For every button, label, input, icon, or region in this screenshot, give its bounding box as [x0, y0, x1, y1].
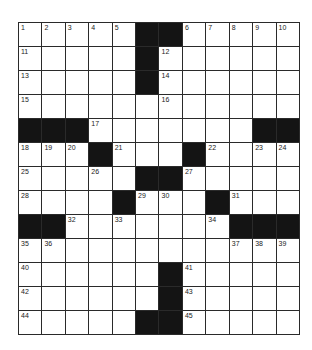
crossword-cell[interactable]: [136, 95, 158, 118]
crossword-cell[interactable]: 9: [253, 23, 275, 46]
crossword-cell[interactable]: 12: [159, 47, 181, 70]
crossword-cell[interactable]: [42, 47, 64, 70]
crossword-cell[interactable]: 27: [183, 167, 205, 190]
crossword-cell[interactable]: [159, 239, 181, 262]
crossword-cell[interactable]: 10: [277, 23, 299, 46]
crossword-cell[interactable]: 8: [230, 23, 252, 46]
crossword-cell[interactable]: [113, 239, 135, 262]
crossword-cell[interactable]: [230, 95, 252, 118]
crossword-cell[interactable]: [183, 47, 205, 70]
crossword-cell[interactable]: [230, 47, 252, 70]
crossword-cell[interactable]: [42, 311, 64, 334]
crossword-cell[interactable]: [66, 47, 88, 70]
crossword-cell[interactable]: [136, 287, 158, 310]
crossword-cell[interactable]: 26: [89, 167, 111, 190]
crossword-cell[interactable]: [253, 311, 275, 334]
crossword-cell[interactable]: 24: [277, 143, 299, 166]
crossword-cell[interactable]: [253, 191, 275, 214]
crossword-cell[interactable]: [89, 263, 111, 286]
crossword-cell[interactable]: [206, 47, 228, 70]
crossword-cell[interactable]: [183, 71, 205, 94]
crossword-cell[interactable]: [113, 287, 135, 310]
crossword-cell[interactable]: [136, 215, 158, 238]
crossword-cell[interactable]: 42: [19, 287, 41, 310]
crossword-cell[interactable]: 18: [19, 143, 41, 166]
crossword-cell[interactable]: [253, 47, 275, 70]
crossword-cell[interactable]: 3: [66, 23, 88, 46]
crossword-cell[interactable]: [277, 95, 299, 118]
crossword-cell[interactable]: 45: [183, 311, 205, 334]
crossword-cell[interactable]: 34: [206, 215, 228, 238]
crossword-cell[interactable]: [66, 311, 88, 334]
crossword-cell[interactable]: 4: [89, 23, 111, 46]
crossword-cell[interactable]: [230, 143, 252, 166]
crossword-cell[interactable]: [66, 191, 88, 214]
crossword-cell[interactable]: [113, 47, 135, 70]
crossword-cell[interactable]: [206, 311, 228, 334]
crossword-cell[interactable]: 37: [230, 239, 252, 262]
crossword-cell[interactable]: 39: [277, 239, 299, 262]
crossword-cell[interactable]: 17: [89, 119, 111, 142]
crossword-cell[interactable]: 20: [66, 143, 88, 166]
crossword-cell[interactable]: [66, 167, 88, 190]
crossword-cell[interactable]: 15: [19, 95, 41, 118]
crossword-cell[interactable]: [42, 287, 64, 310]
crossword-cell[interactable]: 36: [42, 239, 64, 262]
crossword-cell[interactable]: [66, 95, 88, 118]
crossword-cell[interactable]: [253, 167, 275, 190]
crossword-cell[interactable]: [136, 239, 158, 262]
crossword-cell[interactable]: 25: [19, 167, 41, 190]
crossword-cell[interactable]: 13: [19, 71, 41, 94]
crossword-cell[interactable]: [42, 167, 64, 190]
crossword-cell[interactable]: [183, 95, 205, 118]
crossword-cell[interactable]: [277, 71, 299, 94]
crossword-cell[interactable]: [66, 287, 88, 310]
crossword-cell[interactable]: [230, 167, 252, 190]
crossword-cell[interactable]: [277, 311, 299, 334]
crossword-cell[interactable]: [277, 263, 299, 286]
crossword-cell[interactable]: [136, 143, 158, 166]
crossword-cell[interactable]: [277, 47, 299, 70]
crossword-cell[interactable]: [253, 287, 275, 310]
crossword-cell[interactable]: [159, 143, 181, 166]
crossword-cell[interactable]: [159, 215, 181, 238]
crossword-cell[interactable]: [253, 71, 275, 94]
crossword-cell[interactable]: [277, 287, 299, 310]
crossword-cell[interactable]: 1: [19, 23, 41, 46]
crossword-cell[interactable]: [183, 239, 205, 262]
crossword-cell[interactable]: [230, 71, 252, 94]
crossword-cell[interactable]: [113, 311, 135, 334]
crossword-cell[interactable]: [66, 263, 88, 286]
crossword-cell[interactable]: 11: [19, 47, 41, 70]
crossword-cell[interactable]: [183, 191, 205, 214]
crossword-cell[interactable]: [113, 71, 135, 94]
crossword-cell[interactable]: [113, 119, 135, 142]
crossword-cell[interactable]: [136, 119, 158, 142]
crossword-cell[interactable]: [89, 95, 111, 118]
crossword-cell[interactable]: 28: [19, 191, 41, 214]
crossword-cell[interactable]: [206, 263, 228, 286]
crossword-cell[interactable]: [66, 71, 88, 94]
crossword-cell[interactable]: 43: [183, 287, 205, 310]
crossword-cell[interactable]: [113, 263, 135, 286]
crossword-cell[interactable]: [206, 167, 228, 190]
crossword-cell[interactable]: 22: [206, 143, 228, 166]
crossword-cell[interactable]: [277, 167, 299, 190]
crossword-cell[interactable]: [277, 191, 299, 214]
crossword-cell[interactable]: 19: [42, 143, 64, 166]
crossword-cell[interactable]: 31: [230, 191, 252, 214]
crossword-cell[interactable]: [253, 263, 275, 286]
crossword-cell[interactable]: [206, 287, 228, 310]
crossword-cell[interactable]: [206, 119, 228, 142]
crossword-cell[interactable]: 35: [19, 239, 41, 262]
crossword-cell[interactable]: 14: [159, 71, 181, 94]
crossword-cell[interactable]: [42, 191, 64, 214]
crossword-cell[interactable]: [89, 47, 111, 70]
crossword-cell[interactable]: [230, 311, 252, 334]
crossword-cell[interactable]: [113, 167, 135, 190]
crossword-cell[interactable]: [66, 239, 88, 262]
crossword-cell[interactable]: 44: [19, 311, 41, 334]
crossword-cell[interactable]: 40: [19, 263, 41, 286]
crossword-cell[interactable]: [253, 95, 275, 118]
crossword-cell[interactable]: 23: [253, 143, 275, 166]
